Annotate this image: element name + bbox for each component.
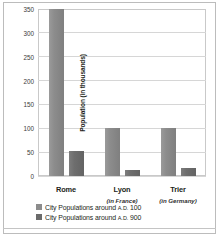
legend-label: City Populations around A.D. 100 [45, 204, 141, 211]
bottom-divider [3, 228, 216, 229]
bar-trier-series-2 [181, 168, 196, 176]
y-axis-tick-label: 100 [23, 125, 34, 132]
x-axis-group-lyon: Lyon(in France) [106, 178, 137, 204]
y-axis-tick-label: 50 [27, 149, 34, 156]
legend-label-prefix: City Populations around [45, 204, 118, 211]
chart-legend: City Populations around A.D. 100City Pop… [36, 202, 141, 222]
bar-rome-series-1 [49, 9, 64, 176]
x-axis-label-trier: Trier [170, 185, 186, 194]
legend-item-2[interactable]: City Populations around A.D. 900 [36, 212, 141, 222]
bar-lyon-series-1 [105, 128, 120, 176]
plot-wrapper: 050100150200250300350 Population (in tho… [38, 9, 206, 176]
legend-label-era: A.D. [118, 205, 130, 211]
y-axis-tick-label: 0 [30, 173, 34, 180]
x-axis-category-labels: RomeLyon(in France)Trier(in Germany) [38, 178, 206, 200]
legend-swatch-icon [36, 214, 42, 220]
legend-label-era: A.D. [118, 215, 130, 221]
legend-label-year: 900 [130, 214, 141, 221]
x-axis-label-lyon: Lyon [114, 185, 131, 194]
bars-layer [38, 9, 206, 176]
bar-rome-series-2 [69, 151, 84, 176]
y-axis-tick-label: 350 [23, 6, 34, 13]
bar-trier-series-1 [161, 128, 176, 176]
legend-item-1[interactable]: City Populations around A.D. 100 [36, 202, 141, 212]
chart-figure: 050100150200250300350 Population (in tho… [0, 0, 219, 240]
y-axis-tick-label: 200 [23, 77, 34, 84]
legend-swatch-icon [36, 204, 42, 210]
legend-label: City Populations around A.D. 900 [45, 214, 141, 221]
y-axis-tick-label: 300 [23, 29, 34, 36]
x-axis-label-rome: Rome [56, 185, 76, 194]
bar-lyon-series-2 [125, 170, 140, 176]
x-axis-group-rome: Rome [56, 178, 76, 196]
y-axis-tick-label: 250 [23, 53, 34, 60]
y-axis-tick-label: 150 [23, 101, 34, 108]
x-axis-group-trier: Trier(in Germany) [159, 178, 197, 204]
legend-label-prefix: City Populations around [45, 214, 118, 221]
legend-label-year: 100 [130, 204, 141, 211]
x-axis-sublabel-trier: (in Germany) [159, 197, 197, 204]
